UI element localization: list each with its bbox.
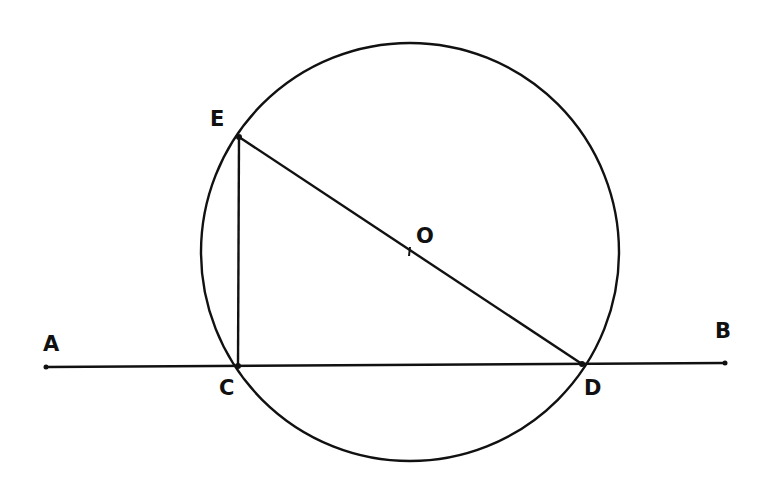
label-e: E — [210, 107, 224, 131]
point-b — [723, 361, 728, 366]
center-tick — [409, 247, 410, 256]
point-e — [236, 134, 242, 140]
label-o: O — [416, 224, 434, 248]
line-ab — [46, 363, 725, 367]
point-a — [44, 365, 49, 370]
label-b: B — [715, 319, 731, 343]
label-a: A — [43, 332, 60, 356]
point-d — [579, 361, 585, 367]
label-d: D — [584, 376, 601, 400]
point-c — [235, 363, 241, 369]
segment-ec — [238, 137, 239, 366]
geometry-diagram: A B C D E O — [0, 0, 767, 491]
label-c: C — [219, 376, 234, 400]
